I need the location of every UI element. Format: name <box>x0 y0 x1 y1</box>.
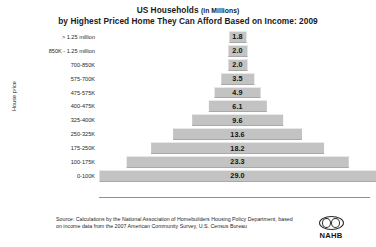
bar-row-label: 250-325K <box>0 131 99 137</box>
chart-title-main: US Households <box>137 5 199 15</box>
x-axis-baseline <box>99 197 370 198</box>
nahb-emblem-icon <box>319 216 344 230</box>
bar[interactable]: 6.1 <box>208 100 266 112</box>
bar-row: 575-700K3.5 <box>0 72 376 86</box>
bar-row-label: 325-400K <box>0 117 99 123</box>
bar[interactable]: 9.6 <box>192 114 284 126</box>
bar-track: 2.0 <box>99 44 376 58</box>
bar-value-label: 1.8 <box>232 32 242 41</box>
chart-title-line-1: US Households (in Millions) <box>0 5 376 16</box>
bar[interactable]: 1.8 <box>229 31 246 43</box>
bar-row-label: 400-475K <box>0 103 99 109</box>
bar-row-label: > 1.25 million <box>0 34 99 40</box>
bar-row-label: 575-700K <box>0 76 99 82</box>
bar-value-label: 2.0 <box>232 60 242 69</box>
bar[interactable]: 18.2 <box>151 142 325 154</box>
bar-row: 400-475K6.1 <box>0 99 376 113</box>
bar-track: 13.6 <box>99 127 376 141</box>
bar-row: 850K - 1.25 million2.0 <box>0 44 376 58</box>
bar-row: 475-575K4.9 <box>0 86 376 100</box>
source-note: Source: Calculations by the National Ass… <box>8 216 308 231</box>
bar-value-label: 4.9 <box>232 88 242 97</box>
chart-plot-area: House price > 1.25 million1.8850K - 1.25… <box>0 30 376 197</box>
bar[interactable]: 3.5 <box>221 73 254 85</box>
source-note-line-1: Source: Calculations by the National Ass… <box>56 216 308 223</box>
bar-row: 175-250K18.2 <box>0 141 376 155</box>
bar[interactable]: 2.0 <box>228 45 247 57</box>
bar[interactable]: 29.0 <box>99 170 376 182</box>
bar[interactable]: 13.6 <box>173 128 303 140</box>
bar-row-label: 475-575K <box>0 90 99 96</box>
bar-value-label: 13.6 <box>230 130 244 139</box>
bar-track: 23.3 <box>99 155 376 169</box>
bar-row: 325-400K9.6 <box>0 113 376 127</box>
bar-row-label: 700-850K <box>0 62 99 68</box>
bar-track: 18.2 <box>99 141 376 155</box>
chart-footer: Source: Calculations by the National Ass… <box>0 216 376 240</box>
bar-row: 250-325K13.6 <box>0 127 376 141</box>
bar-row-label: 175-250K <box>0 145 99 151</box>
bar-track: 3.5 <box>99 72 376 86</box>
bar-row: 700-850K2.0 <box>0 58 376 72</box>
bar-track: 9.6 <box>99 113 376 127</box>
bar-value-label: 9.6 <box>232 116 242 125</box>
bar-track: 29.0 <box>99 169 376 183</box>
bar-track: 4.9 <box>99 86 376 100</box>
bar-value-label: 6.1 <box>232 102 242 111</box>
chart-title-units: (in Millions) <box>201 7 239 14</box>
bar-row-label: 100-175K <box>0 159 99 165</box>
bar-track: 1.8 <box>99 30 376 44</box>
source-note-line-2: on income data from the 2007 American Co… <box>56 223 308 230</box>
bar-value-label: 3.5 <box>232 74 242 83</box>
chart-title-line-2: by Highest Priced Home They Can Afford B… <box>0 16 376 26</box>
bar-row-label: 850K - 1.25 million <box>0 48 99 54</box>
nahb-logo-text: NAHB <box>308 231 354 240</box>
bar[interactable]: 4.9 <box>214 87 261 99</box>
bar-rows: > 1.25 million1.8850K - 1.25 million2.07… <box>0 30 376 197</box>
bar[interactable]: 2.0 <box>228 59 247 71</box>
bar-track: 2.0 <box>99 58 376 72</box>
chart-title-block: US Households (in Millions) by Highest P… <box>0 0 376 26</box>
bar-value-label: 23.3 <box>230 157 244 166</box>
bar-row: > 1.25 million1.8 <box>0 30 376 44</box>
bar-track: 6.1 <box>99 99 376 113</box>
bar-value-label: 2.0 <box>232 46 242 55</box>
bar[interactable]: 23.3 <box>126 156 349 168</box>
bar-value-label: 18.2 <box>230 144 244 153</box>
bar-row: 0-100K29.0 <box>0 169 376 183</box>
bar-row-label: 0-100K <box>0 173 99 179</box>
bar-row: 100-175K23.3 <box>0 155 376 169</box>
bar-value-label: 29.0 <box>230 171 244 180</box>
nahb-logo: NAHB <box>308 216 368 240</box>
